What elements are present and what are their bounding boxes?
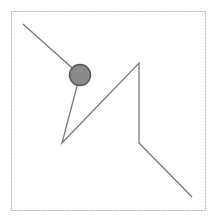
polyline-path bbox=[23, 24, 192, 197]
circle-node[interactable] bbox=[70, 65, 91, 86]
diagram-canvas bbox=[0, 0, 214, 218]
